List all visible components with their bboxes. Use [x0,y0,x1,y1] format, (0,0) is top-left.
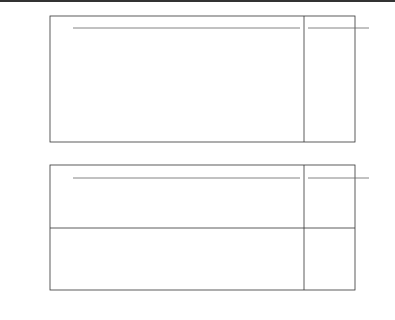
bottom-axes-frame [50,165,355,290]
chart-canvas [0,0,395,320]
top-chart [50,16,369,142]
bottom-chart [50,165,369,290]
top-axes-frame [50,16,355,142]
